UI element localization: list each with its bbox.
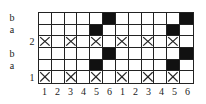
cross-cell (116, 71, 129, 83)
cross-cell (167, 71, 180, 83)
cross-cell (167, 36, 180, 48)
empty-cell (116, 25, 129, 37)
column-label: 4 (155, 86, 168, 97)
column-label: 2 (129, 86, 142, 97)
empty-cell (129, 36, 142, 48)
row-label: b (6, 48, 18, 60)
cross-cell (39, 71, 52, 83)
column-label: 4 (77, 86, 90, 97)
empty-cell (154, 71, 167, 83)
empty-cell (116, 60, 129, 72)
cross-cell (90, 36, 103, 48)
filled-cell (90, 60, 103, 72)
empty-cell (180, 25, 193, 37)
empty-cell (154, 36, 167, 48)
empty-cell (103, 60, 116, 72)
empty-cell (129, 71, 142, 83)
empty-cell (167, 13, 180, 25)
empty-cell (52, 13, 65, 25)
empty-cell (103, 36, 116, 48)
filled-cell (103, 48, 116, 60)
column-label: 6 (103, 86, 116, 97)
column-label: 2 (51, 86, 64, 97)
column-label: 6 (181, 86, 194, 97)
empty-cell (39, 25, 52, 37)
empty-cell (77, 25, 90, 37)
cross-icon (167, 36, 179, 47)
filled-cell (167, 25, 180, 37)
empty-cell (103, 71, 116, 83)
cross-icon (65, 36, 77, 47)
empty-cell (65, 13, 78, 25)
filled-cell (180, 13, 193, 25)
empty-cell (52, 71, 65, 83)
row-label: 1 (26, 72, 38, 84)
cross-cell (116, 36, 129, 48)
empty-cell (103, 25, 116, 37)
empty-cell (154, 25, 167, 37)
cross-cell (65, 71, 78, 83)
empty-cell (65, 25, 78, 37)
cross-icon (90, 36, 102, 47)
cross-cell (142, 71, 155, 83)
row-label: a (6, 24, 18, 36)
empty-cell (39, 48, 52, 60)
cross-icon (65, 71, 77, 83)
cross-icon (116, 36, 128, 47)
empty-cell (167, 48, 180, 60)
cross-cell (90, 71, 103, 83)
cross-cell (39, 36, 52, 48)
cross-cell (65, 36, 78, 48)
empty-cell (52, 48, 65, 60)
cross-cell (142, 36, 155, 48)
empty-cell (77, 71, 90, 83)
empty-cell (52, 36, 65, 48)
empty-cell (142, 48, 155, 60)
empty-cell (90, 48, 103, 60)
empty-cell (129, 13, 142, 25)
empty-cell (65, 60, 78, 72)
empty-cell (77, 60, 90, 72)
filled-cell (167, 60, 180, 72)
cross-icon (167, 71, 179, 83)
filled-cell (103, 13, 116, 25)
column-label: 1 (116, 86, 129, 97)
empty-cell (65, 48, 78, 60)
empty-cell (116, 13, 129, 25)
empty-cell (142, 25, 155, 37)
empty-cell (129, 48, 142, 60)
empty-cell (77, 13, 90, 25)
empty-cell (180, 60, 193, 72)
cross-icon (90, 71, 102, 83)
empty-cell (77, 48, 90, 60)
cross-icon (39, 71, 51, 83)
cross-icon (142, 36, 154, 47)
row-label: a (6, 60, 18, 72)
empty-cell (39, 60, 52, 72)
filled-cell (90, 25, 103, 37)
empty-cell (154, 13, 167, 25)
filled-cell (180, 48, 193, 60)
empty-cell (180, 71, 193, 83)
empty-cell (154, 60, 167, 72)
empty-cell (90, 13, 103, 25)
pattern-grid (38, 12, 194, 84)
empty-cell (52, 25, 65, 37)
cross-icon (39, 36, 51, 47)
cross-icon (116, 71, 128, 83)
empty-cell (154, 48, 167, 60)
empty-cell (116, 48, 129, 60)
row-label: 2 (26, 36, 38, 48)
row-label: b (6, 12, 18, 24)
empty-cell (142, 60, 155, 72)
column-label: 3 (142, 86, 155, 97)
column-label: 5 (168, 86, 181, 97)
empty-cell (142, 13, 155, 25)
empty-cell (129, 25, 142, 37)
empty-cell (180, 36, 193, 48)
empty-cell (77, 36, 90, 48)
empty-cell (52, 60, 65, 72)
column-label: 5 (90, 86, 103, 97)
column-label: 1 (38, 86, 51, 97)
empty-cell (129, 60, 142, 72)
